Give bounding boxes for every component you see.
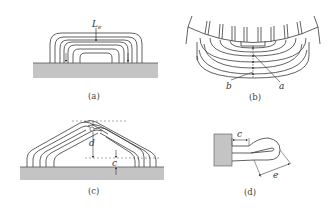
label-a: a (279, 81, 284, 91)
substrate-a (33, 63, 158, 78)
caption-c: (c) (88, 186, 99, 196)
panel-b (186, 16, 320, 82)
label-le: Le (91, 19, 102, 30)
label-c-d: c (237, 129, 242, 139)
label-b: b (226, 81, 232, 91)
label-c: c (112, 158, 117, 168)
panel-a: Le (a) (33, 19, 158, 101)
panel-c: d c (c) (20, 121, 164, 197)
slot-teeth (205, 21, 302, 42)
bent-coil-d (232, 138, 280, 161)
panel-d: c e (d) (214, 129, 291, 197)
coil-diagram-figure: Le (a) (0, 0, 328, 210)
caption-a: (a) (88, 91, 100, 101)
core-block-d (214, 134, 232, 166)
caption-d: (d) (244, 187, 256, 197)
caption-b: (b) (249, 92, 261, 102)
label-d: d (89, 138, 95, 148)
substrate-c (20, 167, 164, 180)
label-e: e (273, 170, 278, 180)
